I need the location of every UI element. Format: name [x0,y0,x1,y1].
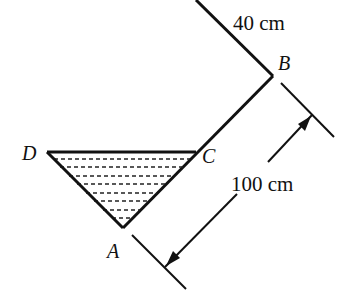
liquid-hatching [54,159,190,218]
label-100cm: 100 cm [231,172,293,196]
label-point-c: C [202,145,216,167]
extension-line-b [281,83,334,137]
extension-line-a [132,235,186,289]
segment-d-to-a [47,152,123,228]
label-40cm: 40 cm [233,11,285,35]
label-point-a: A [105,240,120,262]
diagram-canvas: 40 cm B D C 100 cm A [0,0,351,301]
label-point-b: B [278,52,290,74]
label-point-d: D [21,142,37,164]
